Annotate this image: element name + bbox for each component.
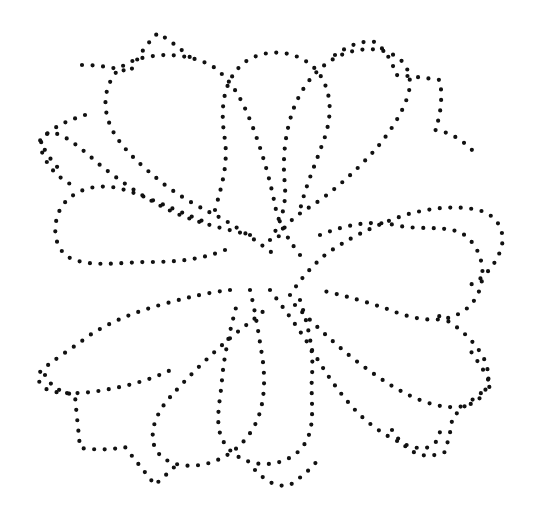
right-lower-petal-outline [295,305,488,407]
bottom-tip-outline [255,460,318,486]
right-upper-petal-outline [290,208,503,295]
top-left-tip-outline [82,33,195,72]
top-lobe-outline [215,53,330,210]
top-left-petal-outline [105,55,300,255]
right-lobe-outline [320,223,482,320]
top-right-tip-outline [335,42,472,150]
left-upper-petal-outline [41,133,250,235]
bottom-right-petal-outline [270,290,440,448]
dotted-motif [38,33,502,486]
left-lower-petal-outline [38,290,230,393]
left-lobe-outline [55,187,225,264]
bottom-right-tip-outline [392,350,492,456]
bottom-left-petal-outline [153,290,270,466]
top-right-petal-outline [270,49,410,245]
bottom-left-tip-outline [45,375,180,485]
dotted-pattern-canvas [0,0,538,509]
